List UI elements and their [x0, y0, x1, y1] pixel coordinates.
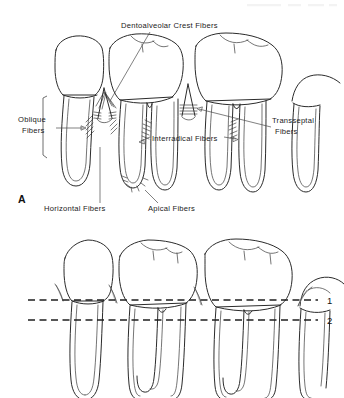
- tooth-far-right-partial: [292, 75, 340, 192]
- panel-a-letter: A: [18, 193, 26, 205]
- label-apical-fibers: Apical Fibers: [148, 204, 195, 213]
- panel-b-tooth-center-molar: [109, 240, 197, 398]
- label-transseptal-fibers-line1: Transseptal: [272, 116, 314, 125]
- leader-apical: [145, 190, 158, 203]
- panel-b-tooth-far-right-partial: [298, 277, 344, 398]
- page-header-smudge: [247, 4, 337, 6]
- label-interradical-fibers: Interradical Fibers: [152, 134, 218, 143]
- arrow-interradical-right: [233, 137, 238, 141]
- label-transseptal-fibers-line2: Fibers: [275, 127, 298, 136]
- label-oblique-fibers-line2: Fibers: [22, 126, 45, 135]
- tooth-left-premolar: [55, 36, 104, 186]
- panel-b-tooth-right-molar: [194, 239, 292, 398]
- interdental-septum-right: [180, 84, 197, 120]
- horizontal-fiber-bundle-left: [94, 112, 116, 119]
- tooth-right-molar: [195, 33, 282, 192]
- panel-a: A Dentoalveolar Crest Fibers Oblique Fib…: [18, 21, 340, 213]
- panel-b-tooth-left-premolar: [55, 240, 113, 398]
- leader-transseptal: [199, 109, 271, 127]
- dentoalveolar-crest-fiber-bundle-left: [96, 92, 116, 109]
- figure-root: A Dentoalveolar Crest Fibers Oblique Fib…: [0, 0, 344, 398]
- reference-number-2: 2: [327, 315, 332, 326]
- panel-b: 1 2: [28, 239, 344, 398]
- tooth-center-molar: [109, 34, 183, 190]
- anatomy-illustration: A Dentoalveolar Crest Fibers Oblique Fib…: [0, 0, 344, 398]
- reference-number-1: 1: [327, 295, 332, 306]
- label-dentoalveolar-crest-fibers: Dentoalveolar Crest Fibers: [121, 21, 218, 30]
- apical-fiber-bundle: [122, 176, 148, 192]
- label-oblique-fibers-line1: Oblique: [18, 115, 46, 124]
- interradical-fiber-bundle-right: [229, 119, 238, 138]
- label-horizontal-fibers: Horizontal Fibers: [44, 204, 106, 213]
